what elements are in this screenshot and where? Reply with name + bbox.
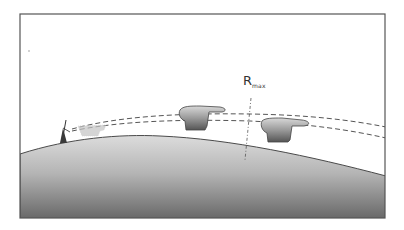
radar-horizon-diagram (0, 0, 404, 230)
rmax-label: Rmax (243, 74, 266, 89)
speck (28, 50, 30, 52)
rmax-label-main: R (243, 73, 252, 88)
rmax-label-subscript: max (252, 82, 266, 89)
